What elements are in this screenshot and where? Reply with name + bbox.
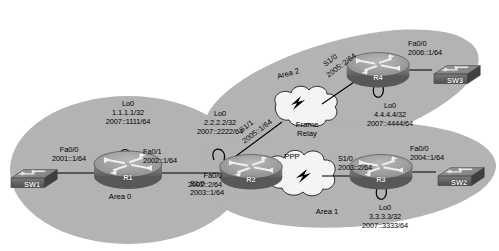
- loopback-label-r3-ipv6: 2007::3333/64: [362, 222, 408, 231]
- router-r2: [220, 155, 283, 190]
- device-label-r3: R3: [376, 175, 385, 184]
- cloud-label-frame-relay: Frame Relay: [296, 120, 319, 138]
- device-label-r4: R4: [373, 73, 382, 82]
- area-label-0: Area 0: [109, 192, 131, 201]
- interface-label-r3-fa00-ipv6: 2004::1/64: [410, 154, 444, 163]
- interface-label-r1-fa01-ipv6: 2002::1/64: [143, 157, 177, 166]
- area-label-1: Area 1: [316, 207, 338, 216]
- device-label-r2: R2: [246, 175, 255, 184]
- cloud-label-ppp: PPP: [284, 152, 300, 161]
- network-diagram-canvas: SW1 SW2 SW3 R1 R2 R3 R4 Area 0 Area 1 Ar…: [0, 0, 499, 251]
- interface-label-r3-s10-ipv6: 2003::2/64: [338, 164, 372, 173]
- device-label-sw1: SW1: [24, 180, 40, 189]
- device-label-sw3: SW3: [447, 76, 463, 85]
- loopback-label-r4-ipv6: 2007::4444/64: [367, 120, 413, 129]
- interface-label-r4-fa00-ipv6: 2006::1/64: [408, 49, 442, 58]
- interface-label-r2-s10-ipv6: 2003::1/64: [190, 189, 224, 198]
- loopback-label-r1-ipv6: 2007::1111/64: [106, 118, 150, 127]
- interface-label-r1-fa00-ipv6: 2001::1/64: [52, 155, 86, 164]
- device-label-sw2: SW2: [451, 178, 467, 187]
- cloud-label-frame-relay-line2: Relay: [297, 129, 317, 138]
- loopback-label-r2-ipv6: 2007::2222/64: [197, 128, 243, 137]
- device-label-r1: R1: [123, 173, 132, 182]
- cloud-label-frame-relay-line1: Frame: [296, 120, 319, 129]
